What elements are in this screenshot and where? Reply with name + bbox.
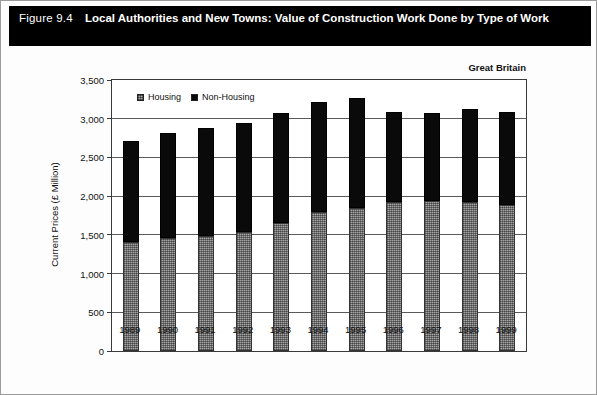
- bar-segment-non-housing-1995: [349, 98, 365, 208]
- plot-area: 05001,0001,5002,0002,5003,0003,500 Housi…: [111, 79, 527, 352]
- non-housing-swatch-icon: [191, 94, 198, 101]
- housing-swatch-icon: [137, 94, 144, 101]
- chart-legend: Housing Non-Housing: [137, 92, 255, 102]
- bar-1991: [198, 128, 214, 351]
- y-tick-label-3500: 3,500: [80, 75, 104, 86]
- bar-segment-non-housing-1997: [424, 113, 440, 200]
- bar-1990: [160, 133, 176, 351]
- bar-1995: [349, 98, 365, 351]
- x-axis-label-1998: 1998: [458, 324, 479, 335]
- y-axis-title: Current Prices (£ Million): [48, 79, 62, 350]
- page-title: Local Authorities and New Towns: Value o…: [85, 11, 583, 27]
- x-axis-label-1989: 1989: [119, 324, 140, 335]
- figure-title-banner: Figure 9.4 Local Authorities and New Tow…: [9, 6, 591, 46]
- x-axis-label-1993: 1993: [270, 324, 291, 335]
- bar-segment-non-housing-1994: [311, 102, 327, 212]
- legend-item-non-housing: Non-Housing: [191, 92, 255, 102]
- bar-segment-non-housing-1998: [462, 109, 478, 202]
- bar-segment-non-housing-1990: [160, 133, 176, 238]
- y-tick-label-500: 500: [88, 307, 104, 318]
- y-tick-label-1500: 1,500: [80, 229, 104, 240]
- bar-segment-non-housing-1999: [499, 112, 515, 206]
- bar-1992: [236, 123, 252, 351]
- y-tick-label-3000: 3,000: [80, 113, 104, 124]
- x-axis-label-1994: 1994: [307, 324, 328, 335]
- x-axis-label-1991: 1991: [195, 324, 216, 335]
- figure-number: Figure 9.4: [19, 11, 73, 27]
- chart-container: Great Britain Current Prices (£ Million)…: [1, 47, 597, 395]
- x-axis-label-1992: 1992: [232, 324, 253, 335]
- bar-segment-non-housing-1993: [273, 113, 289, 224]
- y-tick-label-1000: 1,000: [80, 268, 104, 279]
- bar-1996: [386, 112, 402, 351]
- y-tick-label-2000: 2,000: [80, 191, 104, 202]
- region-label: Great Britain: [468, 62, 526, 73]
- figure-page: Figure 9.4 Local Authorities and New Tow…: [0, 0, 597, 395]
- bar-1997: [424, 113, 440, 351]
- bar-series-layer: [112, 80, 526, 351]
- x-axis-label-1999: 1999: [496, 324, 517, 335]
- bar-1994: [311, 102, 327, 351]
- legend-label-housing: Housing: [148, 92, 181, 102]
- y-tick-label-2500: 2,500: [80, 152, 104, 163]
- legend-label-non-housing: Non-Housing: [202, 92, 255, 102]
- bar-segment-non-housing-1996: [386, 112, 402, 202]
- x-axis-label-1995: 1995: [345, 324, 366, 335]
- x-axis-label-1990: 1990: [157, 324, 178, 335]
- y-tick-label-0: 0: [99, 346, 104, 357]
- bar-segment-non-housing-1991: [198, 128, 214, 236]
- x-axis-label-1996: 1996: [383, 324, 404, 335]
- x-axis-label-1997: 1997: [420, 324, 441, 335]
- bar-1993: [273, 113, 289, 351]
- bar-1999: [499, 112, 515, 351]
- bar-segment-non-housing-1989: [123, 141, 139, 242]
- bar-1998: [462, 109, 478, 351]
- legend-item-housing: Housing: [137, 92, 181, 102]
- bar-segment-non-housing-1992: [236, 123, 252, 232]
- bar-1989: [123, 141, 139, 351]
- figure-title-inner: Figure 9.4 Local Authorities and New Tow…: [9, 6, 591, 27]
